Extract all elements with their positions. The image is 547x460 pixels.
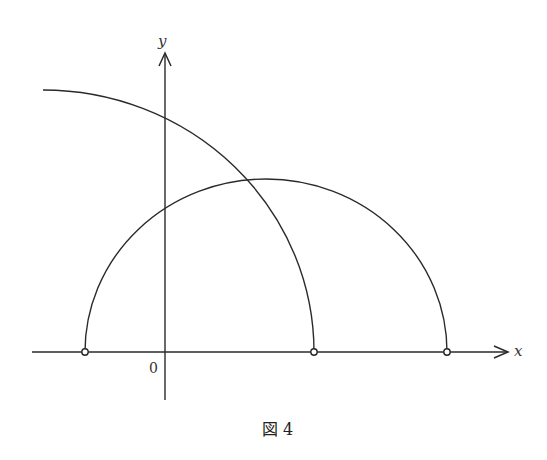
semicircle-left-endpoint	[82, 349, 88, 355]
semicircle	[85, 179, 447, 352]
semicircle-right-endpoint	[444, 349, 450, 355]
origin-label: 0	[149, 360, 158, 376]
figure-caption: 図 4	[262, 420, 293, 439]
large-arc-endpoint	[311, 349, 317, 355]
figure-canvas: y x 0 図 4	[0, 0, 547, 460]
x-axis-label: x	[514, 342, 523, 360]
large-quarter-arc	[43, 90, 314, 352]
y-axis-label: y	[157, 32, 167, 50]
